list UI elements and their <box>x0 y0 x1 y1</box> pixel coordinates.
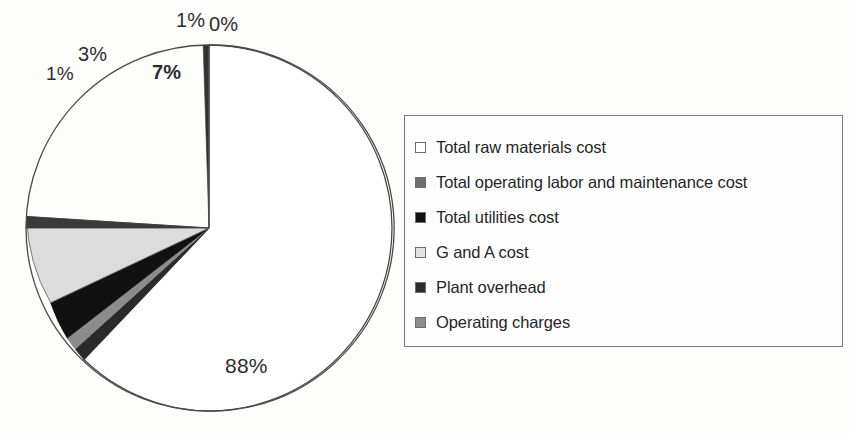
pie-label-total-raw-materials-cost: 88% <box>225 355 268 376</box>
legend-item-label: Total operating labor and maintenance co… <box>436 173 747 191</box>
pie-label-operating-charges: 0% <box>209 14 238 34</box>
legend-item-label: Plant overhead <box>436 278 546 296</box>
pie-label-total-utilities-cost: 3% <box>78 44 107 64</box>
pie-label-g-and-a-cost: 7% <box>152 62 181 82</box>
legend-swatch-icon <box>415 247 426 258</box>
legend-item-label: Operating charges <box>436 313 570 331</box>
legend-item-total-utilities-cost[interactable]: Total utilities cost <box>415 200 842 235</box>
pie-label-plant-overhead: 1% <box>46 64 74 83</box>
chart-legend: Total raw materials cost Total operating… <box>404 115 843 347</box>
legend-item-total-operating-labor-and-maintenance-cost[interactable]: Total operating labor and maintenance co… <box>415 165 842 200</box>
pie-slice-seam-marker <box>203 45 209 228</box>
legend-swatch-icon <box>415 142 426 153</box>
legend-item-g-and-a-cost[interactable]: G and A cost <box>415 235 842 270</box>
pie-chart-figure: 88% 7% 3% 1% 1% 0% Total raw materials c… <box>0 0 852 436</box>
legend-swatch-icon <box>415 177 426 188</box>
legend-item-label: G and A cost <box>436 243 528 261</box>
legend-item-label: Total raw materials cost <box>436 138 606 156</box>
legend-item-total-raw-materials-cost[interactable]: Total raw materials cost <box>415 130 842 165</box>
legend-item-operating-charges[interactable]: Operating charges <box>415 305 842 340</box>
legend-swatch-icon <box>415 212 426 223</box>
legend-swatch-icon <box>415 317 426 328</box>
pie-chart-area: 88% 7% 3% 1% 1% 0% <box>0 0 420 436</box>
pie-slice-total-operating-labor-and-maintenance-cost[interactable] <box>26 217 209 229</box>
legend-swatch-icon <box>415 282 426 293</box>
pie-label-total-operating-labor-and-maintenance-cost: 1% <box>176 10 205 30</box>
legend-item-plant-overhead[interactable]: Plant overhead <box>415 270 842 305</box>
legend-item-label: Total utilities cost <box>436 208 559 226</box>
